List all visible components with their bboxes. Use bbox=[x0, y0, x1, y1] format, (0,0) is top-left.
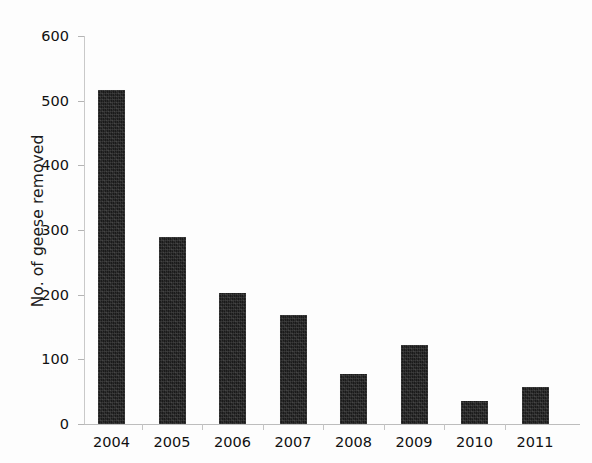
y-tick: 600 bbox=[78, 36, 84, 37]
x-tick bbox=[505, 424, 506, 430]
y-tick: 500 bbox=[78, 101, 84, 102]
bar bbox=[522, 387, 549, 425]
x-tick bbox=[384, 424, 385, 430]
x-tick bbox=[142, 424, 143, 430]
bar bbox=[159, 237, 186, 424]
bar bbox=[340, 374, 367, 424]
y-tick-label: 600 bbox=[41, 28, 69, 44]
bar bbox=[280, 315, 307, 424]
plot-area: 0100200300400500600 20042005200620072008… bbox=[84, 30, 582, 430]
y-tick: 200 bbox=[78, 295, 84, 296]
y-axis-line bbox=[84, 36, 85, 424]
y-tick-label: 500 bbox=[41, 93, 69, 109]
y-tick: 0 bbox=[78, 424, 84, 425]
bar bbox=[98, 90, 125, 424]
x-tick-label: 2006 bbox=[214, 434, 251, 450]
y-tick-label: 100 bbox=[41, 351, 69, 367]
y-tick: 400 bbox=[78, 165, 84, 166]
bar bbox=[461, 401, 488, 424]
x-tick bbox=[444, 424, 445, 430]
y-tick-label: 200 bbox=[41, 287, 69, 303]
y-tick-label: 0 bbox=[60, 416, 69, 432]
x-tick-label: 2011 bbox=[517, 434, 554, 450]
x-tick bbox=[202, 424, 203, 430]
x-tick-label: 2005 bbox=[154, 434, 191, 450]
x-tick-label: 2010 bbox=[456, 434, 493, 450]
x-tick-label: 2007 bbox=[275, 434, 312, 450]
y-tick: 100 bbox=[78, 359, 84, 360]
y-tick: 300 bbox=[78, 230, 84, 231]
x-tick-label: 2009 bbox=[396, 434, 433, 450]
bar bbox=[401, 345, 428, 424]
x-tick-label: 2004 bbox=[93, 434, 130, 450]
y-tick-label: 400 bbox=[41, 157, 69, 173]
y-tick-label: 300 bbox=[41, 222, 69, 238]
bar-chart-figure: No. of geese removed 0100200300400500600… bbox=[0, 0, 592, 463]
x-tick bbox=[263, 424, 264, 430]
x-tick-label: 2008 bbox=[335, 434, 372, 450]
bar bbox=[219, 293, 246, 424]
x-tick bbox=[323, 424, 324, 430]
